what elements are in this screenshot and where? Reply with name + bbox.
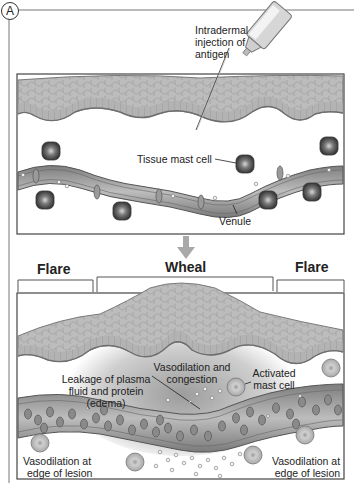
panel-letter-badge: A bbox=[1, 2, 19, 20]
leakage-label-line-1: Leakage of plasma bbox=[56, 373, 156, 385]
activated-mast-cell-label: Activated mast cell bbox=[246, 367, 302, 391]
activated-mast-cell-line-2: mast cell bbox=[246, 379, 302, 391]
vasodilation-congestion-line-1: Vasodilation and bbox=[149, 361, 235, 373]
leakage-label: Leakage of plasma fluid and protein (ede… bbox=[56, 373, 156, 409]
venule-label: Venule bbox=[219, 215, 251, 227]
flare-left-header: Flare bbox=[37, 261, 70, 277]
injection-label-line-1: Intradermal bbox=[195, 24, 248, 36]
injection-label: Intradermal injection of antigen bbox=[195, 24, 248, 60]
activated-mast-cell-line-1: Activated bbox=[246, 367, 302, 379]
down-arrow-icon bbox=[177, 236, 195, 259]
leakage-label-line-3: (edema) bbox=[56, 397, 156, 409]
edge-left-line-2: edge of lesion bbox=[23, 467, 92, 479]
tissue-mast-cell-label: Tissue mast cell bbox=[137, 153, 212, 165]
leakage-label-line-2: fluid and protein bbox=[56, 385, 156, 397]
edge-left-label: Vasodilation at edge of lesion bbox=[23, 455, 92, 479]
edge-right-line-2: edge of lesion bbox=[272, 467, 340, 479]
vasodilation-congestion-line-2: congestion bbox=[149, 373, 235, 385]
edge-right-label: Vasodilation at edge of lesion bbox=[272, 455, 340, 479]
edge-right-line-1: Vasodilation at bbox=[272, 455, 340, 467]
edge-left-line-1: Vasodilation at bbox=[23, 455, 92, 467]
injection-label-line-3: antigen bbox=[195, 48, 248, 60]
diagram-graphics bbox=[0, 0, 354, 483]
injection-label-line-2: injection of bbox=[195, 36, 248, 48]
vasodilation-congestion-label: Vasodilation and congestion bbox=[149, 361, 235, 385]
wheal-header: Wheal bbox=[165, 259, 206, 275]
flare-right-header: Flare bbox=[295, 259, 328, 275]
